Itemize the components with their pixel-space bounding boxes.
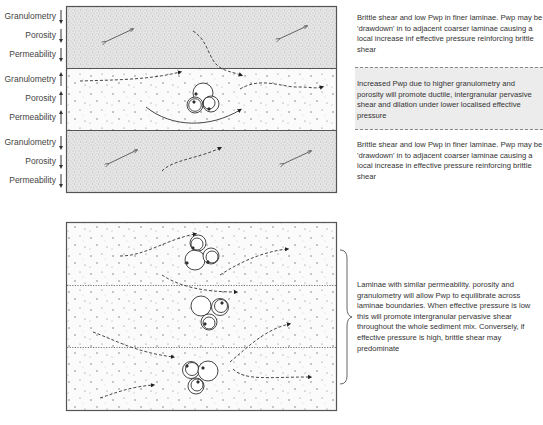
description-bottom-panel: Laminae with similar permeability. poros… <box>357 280 543 354</box>
highlight-box-middle-lamina: Increased Pwp due to higher granulometry… <box>355 67 543 130</box>
top-panel <box>67 7 337 193</box>
property-arrows <box>0 0 543 425</box>
lamina-fine-lower <box>67 131 337 193</box>
description-lower-fine-lamina: Brittle shear and low Pwp in finer lamin… <box>357 140 543 182</box>
description-middle-coarse-lamina: Increased Pwp due to higher granulometry… <box>357 79 541 121</box>
bottom-panel <box>67 223 337 411</box>
curly-brace-icon <box>340 250 352 384</box>
description-upper-fine-lamina: Brittle shear and low Pwp in finer lamin… <box>357 13 543 55</box>
lamina-fine-upper <box>67 7 337 69</box>
figure-caption-cutoff <box>150 420 450 425</box>
